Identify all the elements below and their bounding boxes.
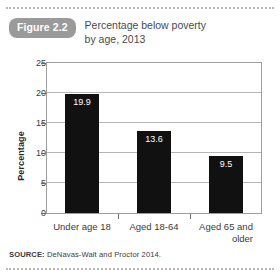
x-tick-mark bbox=[118, 214, 119, 219]
bar-slot: 9.5 bbox=[190, 62, 262, 213]
x-axis-label: Aged 18-64 bbox=[118, 221, 190, 244]
x-axis-label: Under age 18 bbox=[46, 221, 118, 244]
figure-title-line-1: Percentage below poverty bbox=[85, 19, 272, 33]
source-text: DeNavas-Walt and Proctor 2014. bbox=[47, 250, 161, 259]
x-axis-label: Aged 65 andolder bbox=[190, 221, 262, 244]
bar-slot: 19.9 bbox=[46, 62, 118, 213]
x-axis-label-line-1: Aged 18-64 bbox=[129, 221, 178, 232]
x-axis-label-line-2: older bbox=[190, 233, 262, 245]
figure-title-line-2: by age, 2013 bbox=[85, 33, 272, 47]
bar-value-label: 13.6 bbox=[137, 134, 171, 145]
bar: 19.9 bbox=[65, 94, 99, 213]
figure-container: Figure 2.2 Percentage below poverty by a… bbox=[0, 0, 280, 276]
bars-group: 19.913.69.5 bbox=[46, 62, 262, 214]
x-axis-label-line-1: Under age 18 bbox=[53, 221, 111, 232]
bar-value-label: 9.5 bbox=[209, 159, 243, 170]
bar: 9.5 bbox=[209, 156, 243, 213]
bar-slot: 13.6 bbox=[118, 62, 190, 213]
source-label: SOURCE: bbox=[9, 250, 45, 259]
figure-title: Percentage below poverty by age, 2013 bbox=[85, 18, 272, 46]
figure-number-badge: Figure 2.2 bbox=[9, 18, 76, 38]
x-axis-labels: Under age 18Aged 18-64Aged 65 andolder bbox=[46, 221, 262, 244]
figure-header: Figure 2.2 Percentage below poverty by a… bbox=[9, 18, 272, 46]
bar: 13.6 bbox=[137, 131, 171, 213]
x-axis-label-line-1: Aged 65 and bbox=[199, 221, 253, 232]
bar-value-label: 19.9 bbox=[65, 97, 99, 108]
source-note: SOURCE: DeNavas-Walt and Proctor 2014. bbox=[9, 250, 161, 259]
bottom-dotted-rule bbox=[6, 268, 274, 270]
bar-chart: Percentage 0510152025 19.913.69.5 Under … bbox=[0, 55, 280, 240]
x-tick-mark bbox=[190, 214, 191, 219]
top-dotted-rule bbox=[6, 7, 274, 9]
